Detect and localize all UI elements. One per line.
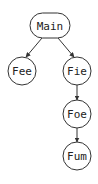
node-foe-label: Foe <box>67 108 87 121</box>
node-fie: Fie <box>63 57 91 85</box>
node-main: Main <box>30 13 70 38</box>
node-fie-label: Fie <box>67 65 87 78</box>
node-fee: Fee <box>8 57 36 85</box>
node-foe: Foe <box>63 100 91 128</box>
call-tree-diagram: Main Fee Fie Foe Fum <box>0 0 98 184</box>
node-main-label: Main <box>37 20 64 33</box>
node-fee-label: Fee <box>12 65 32 78</box>
edge-main-fie <box>58 38 74 57</box>
edge-main-fee <box>26 38 42 57</box>
node-fum-label: Fum <box>67 150 87 163</box>
node-fum: Fum <box>63 142 91 170</box>
